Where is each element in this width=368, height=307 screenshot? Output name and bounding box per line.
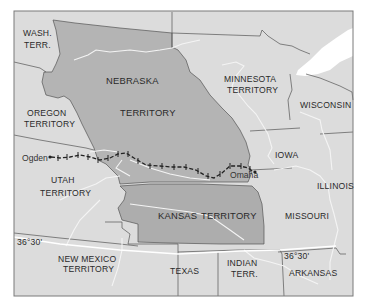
label-wash-terr-2: TERR. xyxy=(24,40,51,50)
label-indian-2: TERR. xyxy=(231,269,258,279)
label-oregon-2: TERRITORY xyxy=(24,119,75,129)
label-wisconsin: WISCONSIN xyxy=(300,100,351,110)
label-new-mexico-2: TERRITORY xyxy=(63,264,114,274)
label-iowa: IOWA xyxy=(275,150,298,160)
label-oregon-1: OREGON xyxy=(27,108,66,118)
label-parallel-east: 36°30' xyxy=(284,251,310,261)
label-texas: TEXAS xyxy=(170,266,199,276)
label-illinois: ILLINOIS xyxy=(317,181,354,191)
label-kansas-1: KANSAS xyxy=(158,210,197,221)
map-canvas: WASH. TERR. NEBRASKA TERRITORY MINNESOTA… xyxy=(0,0,368,307)
label-new-mexico-1: NEW MEXICO xyxy=(58,254,116,264)
label-kansas-2: TERRITORY xyxy=(201,210,257,221)
label-minnesota-1: MINNESOTA xyxy=(224,74,276,84)
label-nebraska-2: TERRITORY xyxy=(120,107,176,118)
label-utah-1: UTAH xyxy=(51,175,75,185)
label-utah-2: TERRITORY xyxy=(40,188,91,198)
label-omaha: Omaha xyxy=(230,170,258,180)
label-parallel-west: 36°30' xyxy=(17,237,43,247)
label-ogden: Ogden xyxy=(22,153,48,163)
label-wash-terr-1: WASH. xyxy=(23,28,52,38)
label-minnesota-2: TERRITORY xyxy=(227,85,278,95)
label-nebraska-1: NEBRASKA xyxy=(106,75,159,86)
label-missouri: MISSOURI xyxy=(285,211,329,221)
ogden-marker xyxy=(48,155,51,158)
label-indian-1: INDIAN xyxy=(227,258,257,268)
label-arkansas: ARKANSAS xyxy=(289,268,337,278)
